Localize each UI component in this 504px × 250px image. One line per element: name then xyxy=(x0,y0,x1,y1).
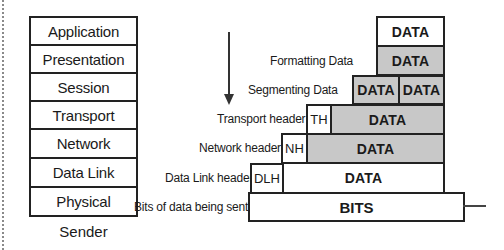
layer-application: Application xyxy=(29,16,138,46)
dotted-border xyxy=(2,0,4,250)
transport-header-box: TH xyxy=(306,104,332,135)
formatting-data-label: Formatting Data xyxy=(270,54,353,68)
layer-network: Network xyxy=(29,128,138,159)
segmenting-data-label: Segmenting Data xyxy=(248,83,338,97)
layer-physical: Physical xyxy=(29,186,138,217)
arrow-head-icon xyxy=(224,94,234,105)
session-segment-2: DATA xyxy=(398,75,445,105)
arrow-down-icon xyxy=(228,32,230,96)
session-segment-1: DATA xyxy=(352,75,400,105)
layer-presentation: Presentation xyxy=(29,44,138,74)
sender-caption: Sender xyxy=(29,223,138,240)
data-link-header-box: DLH xyxy=(250,163,284,194)
application-data-box: DATA xyxy=(376,16,445,47)
presentation-data-box: DATA xyxy=(376,45,445,76)
data-link-data-box: DATA xyxy=(282,162,445,194)
data-link-header-label: Data Link header xyxy=(165,171,253,185)
network-data-box: DATA xyxy=(306,133,445,164)
output-line xyxy=(463,205,486,207)
bits-label: Bits of data being sent xyxy=(134,200,248,214)
network-header-box: NH xyxy=(281,133,308,164)
network-header-label: Network header xyxy=(199,141,281,155)
transport-data-box: DATA xyxy=(330,104,445,135)
bits-box: BITS xyxy=(248,192,465,222)
layer-transport: Transport xyxy=(29,100,138,130)
transport-header-label: Transport header xyxy=(217,112,305,126)
layer-data-link: Data Link xyxy=(29,157,138,188)
layer-session: Session xyxy=(29,72,138,102)
